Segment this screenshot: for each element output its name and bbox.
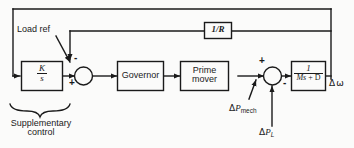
delta-p-l-subscript: L <box>271 131 275 138</box>
summer1-plus-sign: + <box>69 78 75 89</box>
summing-junction-1 <box>75 67 93 85</box>
delta-omega-symbol: ω <box>336 78 344 88</box>
supplementary-line-2: control <box>27 127 54 137</box>
summer1-minus-sign: - <box>74 53 77 64</box>
summing-junction-2 <box>264 67 282 85</box>
summer2-minus-sign: - <box>283 78 286 89</box>
machine-numerator: 1 <box>294 64 322 73</box>
delta-omega-label: Δω <box>329 79 344 88</box>
integrator-numerator: K <box>37 64 47 73</box>
delta-p-mech-subscript: mech <box>241 107 257 114</box>
delta-omega-delta: Δ <box>329 78 335 88</box>
load-ref-pointer <box>56 36 70 62</box>
prime-mover-label: Prime mover <box>180 66 229 85</box>
droop-block-label: 1/R <box>204 25 232 34</box>
supplementary-brace <box>10 104 70 117</box>
delta-p-l-label: ΔPL <box>259 128 274 138</box>
governor-label: Governor <box>117 71 164 80</box>
integrator-denominator: s <box>37 73 47 83</box>
prime-mover-line-2: mover <box>192 74 217 84</box>
supplementary-control-label: Supplementary control <box>0 119 82 138</box>
load-ref-label: Load ref <box>17 25 50 34</box>
integrator-block-label: K s <box>21 64 63 85</box>
block-diagram-canvas: K s Governor Prime mover 1/R 1 Ms + D Lo… <box>0 0 354 148</box>
machine-block-label: 1 Ms + D <box>291 64 326 84</box>
delta-pmech-pointer <box>249 80 256 99</box>
delta-p-mech-label: ΔPmech <box>229 104 257 114</box>
machine-denominator: Ms + D <box>294 73 322 82</box>
summer2-plus-sign: + <box>259 56 265 67</box>
